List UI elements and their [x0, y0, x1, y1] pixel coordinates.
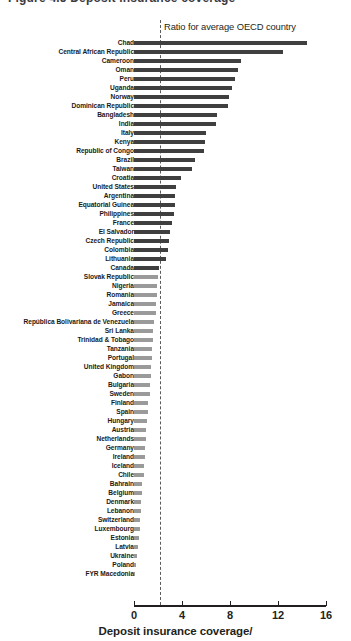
- chart-row: Greece: [0, 308, 351, 317]
- country-label: Taiwan: [112, 164, 134, 173]
- chart-row: Bangladesh: [0, 110, 351, 119]
- x-axis-tick: [278, 601, 279, 606]
- country-label: Iceland: [112, 461, 134, 470]
- country-label: Bulgaria: [108, 380, 134, 389]
- country-label: Canada: [110, 263, 134, 272]
- chart-row: Canada: [0, 263, 351, 272]
- value-bar: [134, 482, 142, 486]
- chart-row: Tanzania: [0, 344, 351, 353]
- value-bar: [134, 356, 152, 360]
- value-bar: [134, 176, 181, 180]
- country-label: Greece: [112, 308, 134, 317]
- value-bar: [134, 401, 148, 405]
- country-label: Romania: [107, 290, 135, 299]
- country-label: Colombia: [104, 245, 134, 254]
- chart-row: France: [0, 218, 351, 227]
- country-label: FYR Macedonia: [86, 569, 134, 578]
- value-bar: [134, 158, 195, 162]
- country-label: India: [119, 119, 134, 128]
- x-axis-tick-label: 8: [227, 609, 233, 621]
- country-label: Nigeria: [112, 281, 134, 290]
- value-bar: [134, 518, 140, 522]
- chart-row: Oman: [0, 65, 351, 74]
- country-label: Equatorial Guinea: [78, 200, 134, 209]
- chart-row: Gabon: [0, 371, 351, 380]
- chart-row: Lithuania: [0, 254, 351, 263]
- chart-row: Cameroon: [0, 56, 351, 65]
- chart-row: United States: [0, 182, 351, 191]
- value-bar: [134, 212, 174, 216]
- chart-row: Hungary: [0, 416, 351, 425]
- country-label: Philippines: [99, 209, 134, 218]
- chart-row: Switzerland: [0, 515, 351, 524]
- country-label: Ireland: [113, 452, 134, 461]
- value-bar: [134, 419, 147, 423]
- country-label: Oman: [116, 65, 135, 74]
- chart-row: India: [0, 119, 351, 128]
- country-label: Latvia: [115, 542, 134, 551]
- chart-row: Ireland: [0, 452, 351, 461]
- country-label: Cameroon: [102, 56, 134, 65]
- value-bar: [134, 509, 141, 513]
- x-axis-tick-label: 0: [131, 609, 137, 621]
- value-bar: [134, 86, 232, 90]
- chart-row: Estonia: [0, 533, 351, 542]
- value-bar: [134, 311, 156, 315]
- value-bar: [134, 230, 170, 234]
- value-bar: [134, 167, 192, 171]
- value-bar: [134, 194, 175, 198]
- country-label: Italy: [121, 128, 134, 137]
- value-bar: [134, 383, 150, 387]
- country-label: Peru: [120, 74, 134, 83]
- chart-row: Spain: [0, 407, 351, 416]
- value-bar: [134, 95, 229, 99]
- value-bar: [134, 104, 228, 108]
- country-label: Hungary: [108, 416, 134, 425]
- chart-row: Germany: [0, 443, 351, 452]
- chart-row: Lebanon: [0, 506, 351, 515]
- chart-row: Norway: [0, 92, 351, 101]
- country-label: El Salvador: [99, 227, 134, 236]
- chart-row: Bulgaria: [0, 380, 351, 389]
- country-label: Finland: [111, 398, 134, 407]
- chart-row: Austria: [0, 425, 351, 434]
- value-bar: [134, 41, 307, 45]
- chart-row: Republic of Congo: [0, 146, 351, 155]
- country-label: República Bolivariana de Venezuela: [24, 317, 134, 326]
- country-label: Czech Republic: [86, 236, 134, 245]
- country-label: Austria: [112, 425, 134, 434]
- chart-row: Iceland: [0, 461, 351, 470]
- chart-row: Ukraine: [0, 551, 351, 560]
- chart-row: Slovak Republic: [0, 272, 351, 281]
- country-label: Estonia: [111, 533, 134, 542]
- country-label: Tanzania: [107, 344, 134, 353]
- figure-title-text: Figure 4.5 Deposit insurance coverage: [8, 0, 235, 5]
- value-bar: [134, 239, 169, 243]
- value-bar: [134, 410, 148, 414]
- x-axis-tick: [326, 601, 327, 606]
- country-label: Denmark: [106, 497, 134, 506]
- value-bar: [134, 122, 216, 126]
- chart-row: Portugal: [0, 353, 351, 362]
- x-axis-tick-label: 12: [272, 609, 284, 621]
- chart-row: Dominican Republic: [0, 101, 351, 110]
- chart-row: Netherlands: [0, 434, 351, 443]
- chart-row: Italy: [0, 128, 351, 137]
- country-label: Netherlands: [96, 434, 134, 443]
- value-bar: [134, 185, 176, 189]
- chart-row: Denmark: [0, 497, 351, 506]
- country-label: Croatia: [112, 173, 134, 182]
- country-label: Portugal: [108, 353, 134, 362]
- value-bar: [134, 149, 204, 153]
- country-label: Lithuania: [105, 254, 134, 263]
- country-label: Belgium: [108, 488, 134, 497]
- x-axis-tick: [182, 601, 183, 606]
- value-bar: [134, 536, 139, 540]
- country-label: Central African Republic: [59, 47, 135, 56]
- chart-row: Bahrain: [0, 479, 351, 488]
- value-bar: [134, 77, 235, 81]
- value-bar: [134, 500, 141, 504]
- country-label: Ukraine: [110, 551, 134, 560]
- country-label: Dominican Republic: [72, 101, 134, 110]
- chart-row: Colombia: [0, 245, 351, 254]
